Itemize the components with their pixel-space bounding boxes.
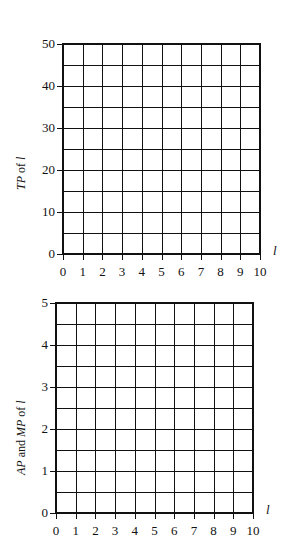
- gridline-horizontal: [64, 170, 259, 171]
- y-tick-label: 50: [31, 37, 55, 50]
- x-tick-label: 10: [243, 524, 263, 537]
- x-tick-label: 9: [230, 265, 250, 278]
- x-tick-label: 5: [152, 265, 172, 278]
- x-tick-label: 8: [211, 265, 231, 278]
- x-tick-mark: [214, 514, 215, 519]
- x-tick-label: 6: [171, 265, 191, 278]
- y-tick-mark: [50, 429, 55, 430]
- gridline-horizontal: [64, 128, 259, 129]
- x-tick-mark: [56, 514, 57, 519]
- y-axis-title-part: of: [14, 160, 28, 176]
- x-tick-mark: [253, 514, 254, 519]
- y-tick-mark: [57, 212, 62, 213]
- x-tick-label: 0: [46, 524, 66, 537]
- y-tick-label: 40: [31, 79, 55, 92]
- gridline-horizontal: [57, 387, 252, 388]
- y-axis-title-part: MP: [14, 420, 28, 437]
- x-tick-mark: [83, 255, 84, 260]
- y-axis-title-part: and: [14, 437, 28, 460]
- y-tick-mark: [57, 44, 62, 45]
- y-tick-mark: [50, 387, 55, 388]
- y-tick-label: 0: [24, 506, 48, 519]
- x-tick-label: 4: [125, 524, 145, 537]
- y-tick-label: 4: [24, 338, 48, 351]
- x-tick-label: 2: [92, 265, 112, 278]
- x-tick-mark: [260, 255, 261, 260]
- x-tick-mark: [194, 514, 195, 519]
- y-tick-label: 3: [24, 380, 48, 393]
- y-tick-label: 10: [31, 205, 55, 218]
- x-tick-mark: [240, 255, 241, 260]
- x-tick-mark: [122, 255, 123, 260]
- gridline-horizontal: [64, 65, 259, 66]
- x-tick-label: 6: [164, 524, 184, 537]
- y-tick-label: 20: [31, 163, 55, 176]
- gridline-horizontal: [64, 233, 259, 234]
- gridline-horizontal: [57, 492, 252, 493]
- y-axis-title: AP and MP of l: [14, 400, 29, 475]
- gridline-horizontal: [57, 450, 252, 451]
- x-tick-mark: [162, 255, 163, 260]
- gridline-horizontal: [57, 366, 252, 367]
- y-axis-title-part: l: [14, 400, 28, 403]
- y-tick-mark: [57, 86, 62, 87]
- x-tick-mark: [95, 514, 96, 519]
- x-tick-label: 9: [223, 524, 243, 537]
- y-tick-label: 0: [31, 247, 55, 260]
- x-tick-mark: [102, 255, 103, 260]
- y-axis-title-part: of: [14, 404, 28, 420]
- x-tick-mark: [155, 514, 156, 519]
- y-axis-title-part: AP: [14, 460, 28, 475]
- x-tick-label: 7: [184, 524, 204, 537]
- gridline-horizontal: [57, 408, 252, 409]
- gridline-horizontal: [57, 429, 252, 430]
- gridline-horizontal: [57, 345, 252, 346]
- y-tick-mark: [50, 471, 55, 472]
- x-tick-label: 8: [204, 524, 224, 537]
- x-tick-mark: [135, 514, 136, 519]
- y-tick-mark: [50, 303, 55, 304]
- gridline-horizontal: [64, 212, 259, 213]
- x-tick-label: 3: [112, 265, 132, 278]
- y-tick-mark: [50, 345, 55, 346]
- x-tick-mark: [115, 514, 116, 519]
- x-tick-mark: [201, 255, 202, 260]
- x-tick-mark: [142, 255, 143, 260]
- x-tick-label: 3: [105, 524, 125, 537]
- plot-grid: [62, 43, 261, 255]
- gridline-horizontal: [57, 471, 252, 472]
- x-tick-mark: [181, 255, 182, 260]
- y-axis-title-part: l: [14, 157, 28, 160]
- y-tick-label: 5: [24, 296, 48, 309]
- gridline-horizontal: [64, 86, 259, 87]
- y-axis-title: TP of l: [14, 157, 29, 190]
- x-tick-label: 1: [73, 265, 93, 278]
- gridline-horizontal: [64, 149, 259, 150]
- x-tick-label: 0: [53, 265, 73, 278]
- x-tick-mark: [233, 514, 234, 519]
- x-axis-label: l: [273, 243, 277, 259]
- y-tick-mark: [50, 513, 55, 514]
- y-tick-mark: [57, 254, 62, 255]
- y-axis-title-part: TP: [14, 176, 28, 190]
- gridline-horizontal: [64, 107, 259, 108]
- x-tick-mark: [221, 255, 222, 260]
- gridline-horizontal: [64, 191, 259, 192]
- x-tick-label: 10: [250, 265, 270, 278]
- x-tick-label: 4: [132, 265, 152, 278]
- plot-grid: [55, 302, 254, 514]
- y-tick-label: 30: [31, 121, 55, 134]
- x-tick-mark: [76, 514, 77, 519]
- x-tick-label: 7: [191, 265, 211, 278]
- x-tick-label: 5: [145, 524, 165, 537]
- x-axis-label: l: [266, 502, 270, 518]
- x-tick-mark: [63, 255, 64, 260]
- x-tick-label: 2: [85, 524, 105, 537]
- x-tick-label: 1: [66, 524, 86, 537]
- gridline-horizontal: [57, 324, 252, 325]
- y-tick-mark: [57, 170, 62, 171]
- x-tick-mark: [174, 514, 175, 519]
- y-tick-mark: [57, 128, 62, 129]
